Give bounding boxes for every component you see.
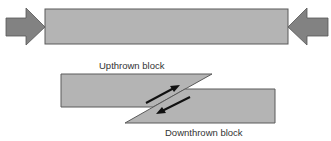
- right-compression-arrow-icon: [288, 8, 328, 45]
- left-compression-arrow-icon: [6, 8, 45, 45]
- upthrown-block-label: Upthrown block: [99, 60, 164, 71]
- compression-bar: [45, 9, 288, 44]
- downthrown-block-label: Downthrown block: [165, 127, 243, 138]
- thrust-fault-diagram: [0, 0, 331, 141]
